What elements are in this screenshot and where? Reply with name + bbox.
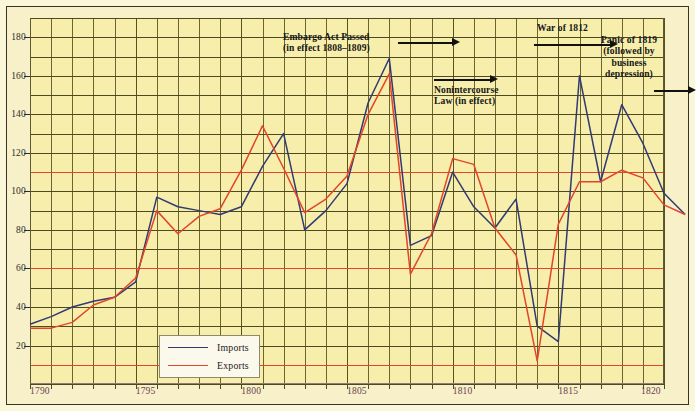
x-axis-tick-mark	[157, 384, 158, 389]
y-axis-tick-mark	[24, 307, 30, 308]
x-axis-tick-mark	[115, 384, 116, 389]
x-axis-tick-label: 1800	[241, 386, 261, 396]
annotation-nonintercourse-arrow	[434, 75, 498, 84]
annotation-nonintercourse-line1: Nonintercourse	[434, 84, 499, 95]
y-axis-tick-label: 180	[0, 32, 26, 42]
annotation-war-1812: War of 1812	[537, 22, 588, 33]
x-axis-tick-mark	[30, 384, 31, 389]
annotation-panic-1819: Panic of 1819 (followed by business depr…	[586, 34, 672, 79]
x-axis-tick-mark	[199, 384, 200, 389]
annotation-embargo-act: Embargo Act Passed (in effect 1808–1809)	[283, 31, 370, 54]
x-axis-tick-label: 1795	[136, 386, 156, 396]
series-line-exports	[30, 74, 685, 361]
y-axis-tick-label: 100	[0, 186, 26, 196]
x-axis-tick-mark	[453, 384, 454, 389]
x-axis-tick-mark	[136, 384, 137, 389]
x-axis-tick-mark	[51, 384, 52, 389]
x-axis-tick-label: 1790	[30, 386, 50, 396]
x-axis-tick-mark	[664, 384, 665, 389]
x-axis-tick-mark	[474, 384, 475, 389]
y-axis-tick-mark	[24, 268, 30, 269]
y-axis-tick-label: 60	[0, 263, 26, 273]
x-axis-tick-label: 1805	[347, 386, 367, 396]
x-axis-tick-mark	[347, 384, 348, 389]
x-axis-tick-mark	[241, 384, 242, 389]
x-axis-tick-mark	[495, 384, 496, 389]
x-axis-tick-mark	[263, 384, 264, 389]
annotation-embargo-line2: (in effect 1808–1809)	[283, 42, 370, 53]
y-axis-tick-label: 160	[0, 71, 26, 81]
legend-swatch-imports	[168, 347, 208, 348]
x-axis-tick-mark	[580, 384, 581, 389]
y-axis-tick-label: 80	[0, 225, 26, 235]
y-axis-tick-mark	[24, 230, 30, 231]
x-axis-tick-mark	[432, 384, 433, 389]
y-axis-tick-mark	[24, 37, 30, 38]
y-axis-tick-label: 20	[0, 341, 26, 351]
x-axis-tick-mark	[220, 384, 221, 389]
x-axis-tick-mark	[93, 384, 94, 389]
x-axis-tick-mark	[410, 384, 411, 389]
x-axis-tick-mark	[326, 384, 327, 389]
annotation-panic-line4: depression)	[586, 68, 672, 79]
legend-label-imports: Imports	[217, 342, 249, 353]
legend-item-imports: Imports	[168, 342, 249, 353]
y-axis-tick-label: 120	[0, 148, 26, 158]
x-axis-tick-label: 1810	[453, 386, 473, 396]
y-axis-tick-mark	[24, 153, 30, 154]
x-axis-tick-mark	[72, 384, 73, 389]
legend-swatch-exports	[168, 365, 208, 366]
x-axis-tick-mark	[389, 384, 390, 389]
chart-legend: Imports Exports	[159, 335, 260, 378]
y-axis-tick-label: 140	[0, 109, 26, 119]
x-axis-tick-mark	[305, 384, 306, 389]
x-axis-tick-mark	[537, 384, 538, 389]
x-axis-tick-label: 1820	[641, 386, 661, 396]
x-axis-tick-mark	[178, 384, 179, 389]
annotation-nonintercourse-line2: Law (in effect)	[434, 95, 499, 106]
annotation-panic-arrow	[654, 86, 696, 95]
annotation-embargo-arrow	[398, 38, 460, 47]
x-axis-tick-mark	[601, 384, 602, 389]
y-axis-tick-mark	[24, 114, 30, 115]
x-axis-tick-mark	[622, 384, 623, 389]
x-axis-tick-mark	[516, 384, 517, 389]
x-axis-tick-mark	[284, 384, 285, 389]
x-axis-tick-label: 1815	[558, 386, 578, 396]
annotation-war-line1: War of 1812	[537, 22, 588, 33]
annotation-panic-line2: (followed by	[586, 45, 672, 56]
plot-area: Embargo Act Passed (in effect 1808–1809)…	[30, 18, 664, 384]
x-axis-tick-mark	[558, 384, 559, 389]
x-axis-tick-mark	[643, 384, 644, 389]
x-axis-tick-mark	[368, 384, 369, 389]
annotation-panic-line3: business	[586, 57, 672, 68]
annotation-embargo-line1: Embargo Act Passed	[283, 31, 370, 42]
series-line-imports	[30, 58, 685, 341]
y-axis-tick-mark	[24, 76, 30, 77]
y-axis-tick-mark	[24, 346, 30, 347]
data-series-layer	[30, 18, 664, 384]
y-axis-tick-mark	[24, 191, 30, 192]
legend-item-exports: Exports	[168, 360, 249, 371]
annotation-panic-line1: Panic of 1819	[586, 34, 672, 45]
legend-label-exports: Exports	[217, 360, 249, 371]
y-axis-tick-label: 40	[0, 302, 26, 312]
annotation-nonintercourse: Nonintercourse Law (in effect)	[434, 84, 499, 107]
